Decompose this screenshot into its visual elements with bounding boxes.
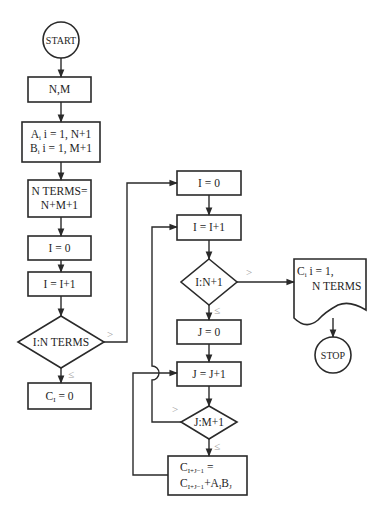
i-init-right-label: I = 0 (177, 177, 241, 190)
decision-n1-label: I:N+1 (181, 276, 237, 289)
i-init-left-label: I = 0 (28, 242, 91, 255)
start-label: START (43, 34, 79, 47)
decision-nterms-label: I:N TERMS (18, 336, 104, 349)
cond-gt-n1: > (246, 266, 252, 278)
j-init-label: J = 0 (177, 326, 241, 339)
cond-gt-nterms: > (107, 328, 113, 340)
j-incr-label: J = J+1 (177, 368, 241, 381)
update-label-1: CI+J−1 = (180, 461, 214, 478)
read-b-label: Bi i = 1, M+1 (22, 142, 100, 159)
nterms-label-1: N TERMS= (28, 185, 91, 198)
cond-le-m1: ≤ (214, 440, 220, 452)
nterms-label-2: N+M+1 (28, 199, 91, 212)
input-label: N,M (28, 83, 91, 96)
decision-m1-label: J:M+1 (181, 416, 237, 429)
stop-label: STOP (315, 349, 351, 362)
i-incr-left-label: I = I+1 (28, 278, 91, 291)
cond-le-nterms: ≤ (68, 368, 74, 380)
c-zero-label: CI = 0 (28, 390, 91, 407)
flowchart-canvas (0, 0, 386, 521)
output-label-2: N TERMS (312, 280, 361, 293)
update-label-2: CI+J−1+AIBJ (180, 477, 232, 494)
cond-gt-m1: > (172, 403, 178, 415)
cond-le-n1: ≤ (214, 304, 220, 316)
i-incr-right-label: I = I+1 (177, 221, 241, 234)
